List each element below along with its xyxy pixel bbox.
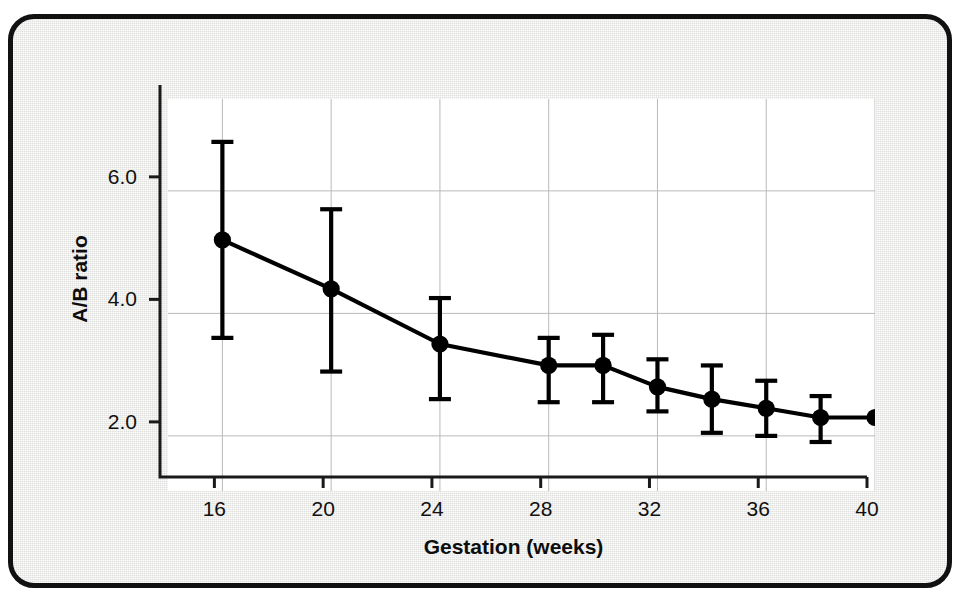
x-tick-label: 28 <box>529 497 552 521</box>
plot-area <box>168 99 875 491</box>
data-point-marker <box>866 409 875 426</box>
line-chart-svg <box>168 99 875 491</box>
y-tick-label: 6.0 <box>75 165 137 189</box>
x-tick-label: 40 <box>855 497 878 521</box>
data-point-marker <box>594 357 611 374</box>
data-point-marker <box>431 335 448 352</box>
data-point-marker <box>758 400 775 417</box>
x-tick-label: 32 <box>638 497 661 521</box>
figure-frame: Gestation (weeks) A/B ratio 2.04.06.0 16… <box>8 14 952 588</box>
x-tick-label: 16 <box>203 497 226 521</box>
figure-page: Gestation (weeks) A/B ratio 2.04.06.0 16… <box>0 0 961 598</box>
x-axis-title: Gestation (weeks) <box>160 535 867 559</box>
data-point-marker <box>649 378 666 395</box>
data-point-marker <box>214 231 231 248</box>
y-tick-label: 2.0 <box>75 410 137 434</box>
data-point-marker <box>703 391 720 408</box>
x-tick-label: 24 <box>420 497 443 521</box>
data-point-marker <box>323 280 340 297</box>
x-tick-label: 36 <box>747 497 770 521</box>
y-axis-title: A/B ratio <box>68 179 92 379</box>
data-point-marker <box>540 357 557 374</box>
data-point-marker <box>812 409 829 426</box>
x-tick-label: 20 <box>311 497 334 521</box>
y-tick-label: 4.0 <box>75 287 137 311</box>
